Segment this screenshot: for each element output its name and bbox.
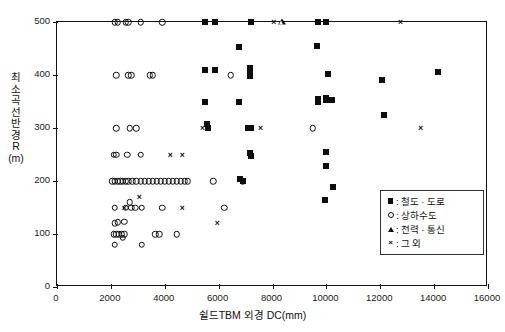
data-point [139,204,146,211]
legend-item-label: 상하수도 [401,208,437,222]
data-point [202,99,208,105]
data-point: × [213,219,221,227]
y-axis-tick [53,181,58,182]
data-point [322,197,328,203]
data-point [323,19,329,25]
x-axis-tick-label: 6000 [188,293,248,303]
data-point [184,178,191,185]
data-point [314,43,320,49]
y-axis-tick [53,128,58,129]
data-point [202,19,208,25]
data-point [236,44,242,50]
legend-item: :상하수도 [385,208,479,222]
legend-separator: : [396,238,399,249]
y-axis-tick-label: 0 [8,281,50,291]
data-point [128,72,135,79]
data-point: × [396,18,404,26]
data-point: × [178,151,186,159]
data-point [323,163,329,169]
x-axis-tick-label: 14000 [403,293,463,303]
x-axis-tick-label: 10000 [295,293,355,303]
y-axis-tick [53,234,58,235]
x-axis-tick-label: 4000 [134,293,194,303]
data-point [236,99,242,105]
x-axis-tick [57,284,58,289]
legend-item: :철도 · 도로 [385,194,479,208]
x-axis-tick [273,284,274,289]
data-point [112,204,119,211]
data-point [212,67,218,73]
y-axis-tick [53,22,58,23]
data-point [212,19,218,25]
data-point [137,19,144,26]
legend-item: :전력 · 통신 [385,222,479,236]
square-marker-icon [388,198,394,204]
data-point [248,153,254,159]
data-point [247,73,253,79]
data-point [132,204,139,211]
data-point [379,77,385,83]
legend-marker [385,198,396,204]
data-point [139,241,146,248]
data-point: × [178,204,186,212]
y-axis-tick-label: 200 [8,175,50,185]
scatter-chart: 최소 곡선반경 R (m) ××××××××××× 쉴드TBM 외경 DC(mm… [0,0,505,332]
y-axis-tick-label: 100 [8,228,50,238]
data-point [125,19,132,26]
data-point [315,19,321,25]
x-axis-tick-label: 12000 [349,293,409,303]
y-axis-tick [53,75,58,76]
triangle-marker-icon [388,227,394,232]
data-point [159,19,166,26]
legend-item-label: 그 외 [401,236,422,250]
data-point [133,125,140,132]
data-point [126,125,133,132]
data-point [114,219,121,226]
x-axis-tick [165,284,166,289]
x-axis-tick [219,284,220,289]
data-point [159,204,166,211]
x-axis-tick-label: 16000 [457,293,505,303]
data-point [137,151,144,158]
triangle-marker-icon [278,19,286,25]
legend-separator: : [396,210,399,221]
x-axis-tick [326,284,327,289]
legend-marker [385,212,396,218]
data-point [315,99,321,105]
x-axis-title: 쉴드TBM 외경 DC(mm) [0,307,505,322]
data-point [113,72,120,79]
data-point [435,69,441,75]
data-point [240,178,247,185]
legend-marker [385,227,396,232]
data-point: × [120,204,128,212]
data-point [124,151,131,158]
data-point [113,125,120,132]
data-point [329,97,335,103]
x-axis-tick-label: 8000 [242,293,302,303]
data-point [381,112,387,118]
data-point [202,67,208,73]
data-point [325,71,331,77]
data-point [330,184,336,190]
legend-item: ×:그 외 [385,236,479,250]
legend-item-label: 철도 · 도로 [401,194,445,208]
data-point: × [256,124,264,132]
data-point [120,234,127,241]
data-point [149,72,156,79]
x-axis-tick-label: 2000 [80,293,140,303]
data-point [248,125,254,131]
data-point: × [198,124,206,132]
legend-separator: : [396,224,399,235]
data-point [174,231,181,238]
chart-legend: :철도 · 도로:상하수도:전력 · 통신×:그 외 [380,190,484,255]
y-axis-tick-label: 300 [8,122,50,132]
legend-marker: × [385,239,396,247]
data-point [227,72,234,79]
data-point [121,219,128,226]
x-axis-tick [380,284,381,289]
data-point [112,241,119,248]
circle-marker-icon [388,212,394,218]
x-axis-tick [111,284,112,289]
data-point: × [135,193,143,201]
y-axis-tick-label: 500 [8,16,50,26]
